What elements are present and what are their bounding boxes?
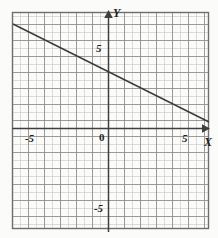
x-tick-label-neg5: -5 xyxy=(25,133,34,144)
y-tick-label-5: 5 xyxy=(96,43,101,54)
x-tick-label-5: 5 xyxy=(182,133,187,144)
coordinate-graph-figure: -5 0 5 5 -5 X Y xyxy=(0,0,218,238)
y-axis-label: Y xyxy=(113,7,120,19)
graph-canvas xyxy=(0,0,218,238)
y-tick-label-neg5: -5 xyxy=(94,203,103,214)
x-axis-label: X xyxy=(204,136,212,148)
origin-label: 0 xyxy=(99,132,104,143)
